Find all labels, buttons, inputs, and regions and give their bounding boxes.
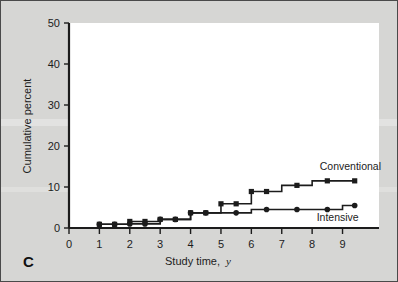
x-tick-label: 6 — [248, 238, 254, 250]
plot-container: 01020304050 0123456789 Conventional Inte… — [1, 1, 398, 282]
panel-letter: C — [23, 253, 34, 270]
y-tick-label: 50 — [48, 17, 60, 29]
data-marker-circle — [352, 203, 358, 209]
y-tick-label: 10 — [48, 181, 60, 193]
figure-panel: 01020304050 0123456789 Conventional Inte… — [0, 0, 398, 282]
data-marker-circle — [112, 222, 118, 228]
data-marker-circle — [203, 210, 209, 216]
y-tick-label: 20 — [48, 140, 60, 152]
data-marker-square — [249, 189, 254, 194]
x-tick-label: 5 — [218, 238, 224, 250]
chart-svg: 01020304050 0123456789 Conventional Inte… — [1, 1, 398, 282]
plot-area-background — [69, 23, 379, 228]
data-marker-square — [325, 178, 330, 183]
x-tick-label: 8 — [309, 238, 315, 250]
x-tick-label: 1 — [96, 238, 102, 250]
data-marker-circle — [127, 221, 133, 227]
x-tick-label: 4 — [188, 238, 194, 250]
data-marker-circle — [142, 221, 148, 227]
y-tick-label: 40 — [48, 58, 60, 70]
x-tick-label: 0 — [66, 238, 72, 250]
data-marker-circle — [233, 210, 239, 216]
x-axis-title-unit: y — [225, 255, 231, 267]
data-marker-circle — [97, 222, 103, 228]
data-marker-square — [234, 201, 239, 206]
data-marker-circle — [264, 207, 270, 213]
series-label-conventional: Conventional — [320, 160, 381, 172]
y-tick-label: 30 — [48, 99, 60, 111]
x-tick-label: 7 — [279, 238, 285, 250]
data-marker-square — [264, 189, 269, 194]
data-marker-circle — [294, 207, 300, 213]
data-marker-square — [294, 183, 299, 188]
x-tick-label: 2 — [127, 238, 133, 250]
x-tick-label: 9 — [339, 238, 345, 250]
x-axis-title: Study time, y — [165, 255, 231, 267]
series-label-intensive: Intensive — [317, 211, 359, 223]
x-tick-label: 3 — [157, 238, 163, 250]
y-tick-label-group: 01020304050 — [48, 17, 60, 234]
x-axis-title-main: Study time, — [165, 255, 220, 267]
data-marker-square — [352, 178, 357, 183]
data-marker-circle — [173, 217, 179, 223]
x-tick-label-group: 0123456789 — [66, 238, 346, 250]
data-marker-square — [218, 201, 223, 206]
y-axis-title: Cumulative percent — [21, 79, 33, 174]
data-marker-circle — [188, 210, 194, 216]
data-marker-circle — [157, 217, 163, 223]
y-tick-label: 0 — [54, 222, 60, 234]
